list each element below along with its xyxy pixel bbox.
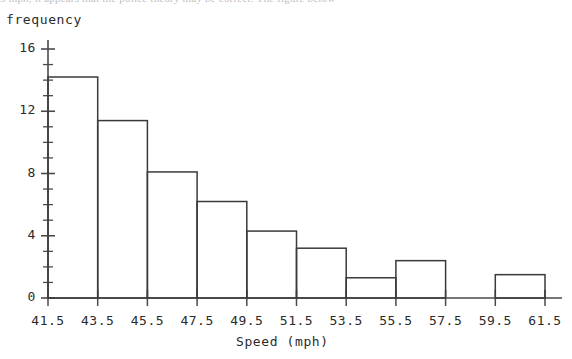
histogram-bar: [98, 121, 148, 298]
x-tick-label: 53.5: [324, 313, 368, 328]
histogram-bar: [297, 248, 347, 298]
y-tick-label: 4: [6, 227, 36, 242]
x-tick-label: 43.5: [76, 313, 120, 328]
histogram-bar: [346, 278, 396, 298]
axis-lines: [48, 40, 562, 298]
x-tick-label: 45.5: [125, 313, 169, 328]
histogram-bar: [247, 231, 297, 298]
x-tick-label: 61.5: [523, 313, 567, 328]
histogram-bars: [48, 77, 545, 298]
y-tick-label: 16: [6, 40, 36, 55]
x-tick-label: 51.5: [275, 313, 319, 328]
x-tick-label: 41.5: [26, 313, 70, 328]
histogram-bar: [396, 261, 446, 298]
histogram-bar: [197, 202, 247, 298]
y-tick-label: 0: [6, 289, 36, 304]
x-tick-label: 47.5: [175, 313, 219, 328]
x-tick-label: 49.5: [225, 313, 269, 328]
histogram-bar: [48, 77, 98, 298]
histogram-plot: [0, 0, 572, 359]
x-tick-label: 59.5: [473, 313, 517, 328]
y-tick-label: 8: [6, 165, 36, 180]
histogram-bar: [495, 275, 545, 298]
y-tick-label: 12: [6, 102, 36, 117]
x-tick-label: 55.5: [374, 313, 418, 328]
histogram-bar: [147, 172, 197, 298]
x-tick-label: 57.5: [424, 313, 468, 328]
